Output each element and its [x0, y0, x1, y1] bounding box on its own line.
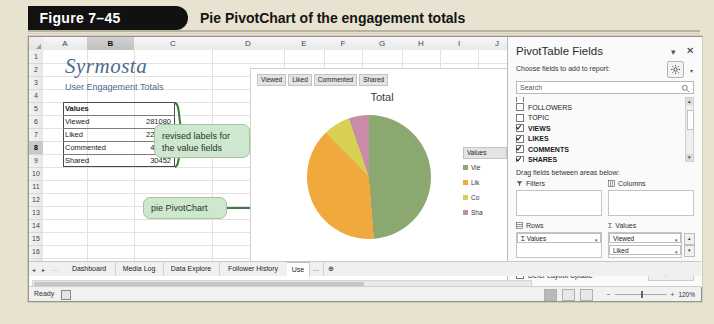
legend-item-3[interactable]: Sha: [463, 209, 507, 216]
close-icon[interactable]: ✕: [686, 45, 694, 56]
normal-view-button[interactable]: [544, 289, 557, 301]
row-header-13[interactable]: 13: [29, 206, 43, 220]
columns-text: Columns: [618, 180, 646, 187]
field-row-likes[interactable]: LIKES: [516, 134, 694, 145]
field-row-followers[interactable]: FOLLOWERS: [516, 102, 694, 113]
filters-text: Filters: [526, 180, 545, 187]
column-header-e[interactable]: E: [284, 37, 325, 50]
macro-record-icon[interactable]: [61, 290, 71, 300]
panel-title: PivotTable Fields: [516, 45, 603, 57]
chart-filter-viewed[interactable]: Viewed: [257, 74, 286, 86]
chart-legend[interactable]: Values VieLikCoSha: [463, 147, 507, 224]
sheet-tab-media-log[interactable]: Media Log: [115, 262, 164, 276]
field-row-views[interactable]: VIEWS: [516, 123, 694, 134]
column-header-g[interactable]: G: [362, 37, 403, 50]
field-row-topic[interactable]: TOPIC: [516, 113, 694, 124]
zoom-out-button[interactable]: −: [607, 291, 611, 298]
row-header-9[interactable]: 9: [29, 154, 43, 168]
page-break-view-button[interactable]: [580, 289, 593, 301]
sheet-tab-use[interactable]: Use: [287, 262, 310, 277]
field-checkbox-followers[interactable]: [516, 103, 524, 111]
scroll-down-icon[interactable]: ▾: [686, 154, 693, 161]
field-list[interactable]: FOLLOWERSTOPICVIEWSLIKESCOMMENTSSHARES: [516, 97, 694, 162]
zoom-in-button[interactable]: +: [671, 291, 675, 298]
field-checkbox-comments[interactable]: [516, 145, 524, 153]
sheet-tab-dashboard[interactable]: Dashboard: [63, 262, 116, 276]
row-header-2[interactable]: 2: [29, 63, 43, 77]
chevron-down-icon[interactable]: ▾: [595, 236, 598, 245]
chart-filter-shared[interactable]: Shared: [359, 74, 388, 86]
column-header-h[interactable]: H: [402, 37, 441, 50]
chevron-down-icon[interactable]: ▾: [675, 236, 678, 245]
sheet-tab-data-explore[interactable]: Data Explore: [163, 262, 220, 276]
sheet-tab-overflow[interactable]: …: [309, 262, 324, 276]
row-header-11[interactable]: 11: [29, 180, 43, 194]
values-chip-liked[interactable]: Liked▾: [609, 245, 681, 255]
panel-minimize-icon[interactable]: ▾: [671, 47, 676, 57]
chart-filter-commented[interactable]: Commented: [314, 74, 357, 86]
legend-item-2[interactable]: Co: [463, 194, 507, 201]
row-header-8[interactable]: 8: [29, 141, 43, 155]
zoom-slider[interactable]: [615, 294, 667, 295]
row-header-5[interactable]: 5: [29, 102, 43, 116]
row-header-6[interactable]: 6: [29, 115, 43, 129]
rows-chip-values[interactable]: Σ Values▾: [517, 233, 601, 243]
legend-swatch: [463, 210, 468, 215]
column-header-f[interactable]: F: [324, 37, 363, 50]
pivottable-fields-panel[interactable]: PivotTable Fields ▾ ✕ Choose fields to a…: [507, 37, 702, 287]
chevron-down-icon[interactable]: ▾: [675, 248, 678, 257]
legend-item-1[interactable]: Lik: [463, 179, 507, 186]
field-row-shares[interactable]: SHARES: [516, 155, 694, 163]
row-header-4[interactable]: 4: [29, 89, 43, 103]
columns-dropzone[interactable]: [608, 190, 694, 216]
chevron-down-icon[interactable]: ▾: [690, 67, 693, 74]
next-sheet-icon[interactable]: ▸: [42, 266, 45, 273]
pie-slices[interactable]: [307, 115, 431, 239]
field-checkbox-likes[interactable]: [516, 135, 524, 143]
scroll-up-icon[interactable]: ▴: [686, 98, 693, 105]
legend-item-0[interactable]: Vie: [463, 164, 507, 171]
column-header-b[interactable]: B: [87, 37, 135, 50]
move-up-button[interactable]: ▴: [684, 233, 695, 245]
row-header-3[interactable]: 3: [29, 76, 43, 90]
prev-sheet-icon[interactable]: ◂: [32, 266, 35, 273]
view-buttons[interactable]: [544, 289, 593, 301]
field-checkbox-views[interactable]: [516, 124, 524, 132]
sheet-nav-buttons[interactable]: ◂ ▸ …: [32, 262, 58, 276]
sheet-tab-follower-history[interactable]: Follower History: [219, 262, 288, 276]
zoom-level[interactable]: 120%: [678, 291, 695, 298]
sheet-list-icon[interactable]: …: [52, 266, 58, 272]
gear-icon[interactable]: [667, 61, 684, 78]
chart-filter-buttons[interactable]: Viewed Liked Commented Shared: [257, 74, 388, 86]
zoom-control[interactable]: − + 120%: [607, 287, 695, 301]
chart-filter-liked[interactable]: Liked: [288, 74, 312, 86]
field-row-comments[interactable]: COMMENTS: [516, 144, 694, 155]
column-header-i[interactable]: I: [440, 37, 479, 50]
column-header-d[interactable]: D: [212, 37, 285, 50]
field-checkbox-topic[interactable]: [516, 114, 524, 122]
figure-page: Figure 7–45 Pie PivotChart of the engage…: [0, 0, 714, 324]
field-list-scrollbar[interactable]: ▴ ▾: [685, 97, 694, 162]
column-header-a[interactable]: A: [43, 37, 88, 50]
row-header-1[interactable]: 1: [29, 50, 43, 64]
filters-dropzone[interactable]: [516, 190, 602, 216]
move-down-button[interactable]: ▾: [684, 245, 695, 257]
row-header-16[interactable]: 16: [29, 245, 43, 259]
column-header-c[interactable]: C: [134, 37, 213, 50]
add-sheet-button[interactable]: ⊕: [323, 262, 339, 276]
search-input[interactable]: Search: [516, 81, 694, 94]
field-checkbox-shares[interactable]: [516, 156, 524, 162]
row-header-10[interactable]: 10: [29, 167, 43, 181]
row-header-7[interactable]: 7: [29, 128, 43, 142]
scrollbar-thumb[interactable]: [687, 110, 694, 130]
pie-pivotchart[interactable]: Viewed Liked Commented Shared Total Valu…: [250, 68, 514, 270]
row-header-12[interactable]: 12: [29, 193, 43, 207]
select-all-corner[interactable]: [29, 37, 44, 50]
row-header-14[interactable]: 14: [29, 219, 43, 233]
sheet-tab-bar[interactable]: ◂ ▸ … DashboardMedia LogData ExploreFoll…: [29, 261, 701, 276]
cell-divider: [63, 115, 175, 116]
values-chip-viewed[interactable]: Viewed▾: [609, 233, 681, 243]
page-layout-view-button[interactable]: [562, 289, 575, 301]
zoom-slider-thumb[interactable]: [641, 291, 643, 298]
row-header-15[interactable]: 15: [29, 232, 43, 246]
